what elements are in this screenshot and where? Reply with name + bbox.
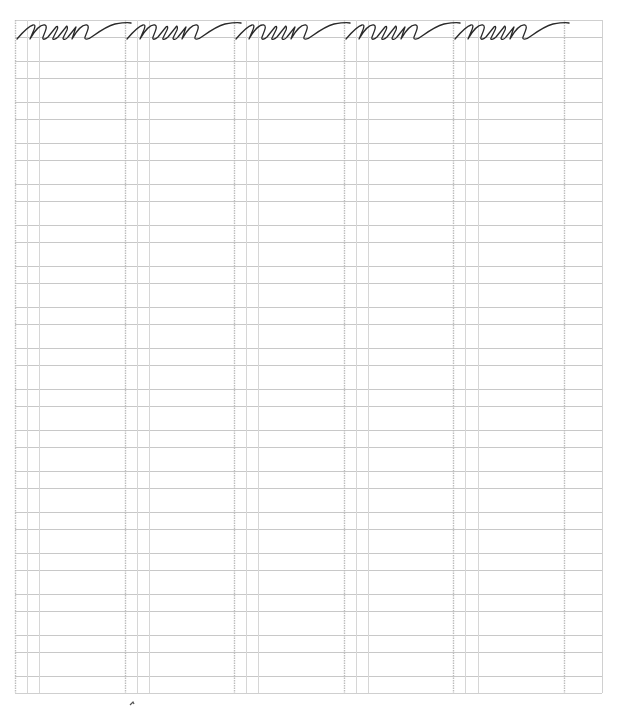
cursive-word-nun: [455, 23, 569, 40]
stray-pen-mark: [130, 702, 134, 705]
handwriting-worksheet: [0, 0, 618, 708]
cursive-word-nun: [236, 23, 350, 40]
cursive-stroke: [455, 23, 569, 40]
vertical-slant-guides: [16, 20, 603, 693]
cursive-stroke: [127, 23, 241, 40]
horizontal-ruling: [15, 21, 602, 694]
cursive-stroke: [236, 23, 350, 40]
cursive-stroke: [346, 23, 460, 40]
cursive-word-row: [17, 23, 569, 40]
practice-grid: [0, 0, 618, 708]
cursive-stroke: [17, 23, 131, 40]
cursive-word-nun: [127, 23, 241, 40]
cursive-word-nun: [17, 23, 131, 40]
cursive-word-nun: [346, 23, 460, 40]
